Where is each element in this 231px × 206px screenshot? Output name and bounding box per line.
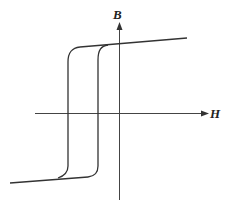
b-axis-label: B: [112, 7, 122, 22]
h-axis-label: H: [209, 106, 221, 121]
ascending-branch: [88, 45, 108, 177]
descending-branch: [58, 47, 80, 178]
hysteresis-loop: [10, 38, 187, 183]
upper-saturation-line: [80, 38, 187, 47]
h-axis-arrow-icon: [201, 111, 209, 117]
lower-saturation-line: [10, 177, 88, 183]
b-axis-arrow-icon: [117, 22, 123, 30]
hysteresis-diagram: H B: [0, 0, 231, 206]
